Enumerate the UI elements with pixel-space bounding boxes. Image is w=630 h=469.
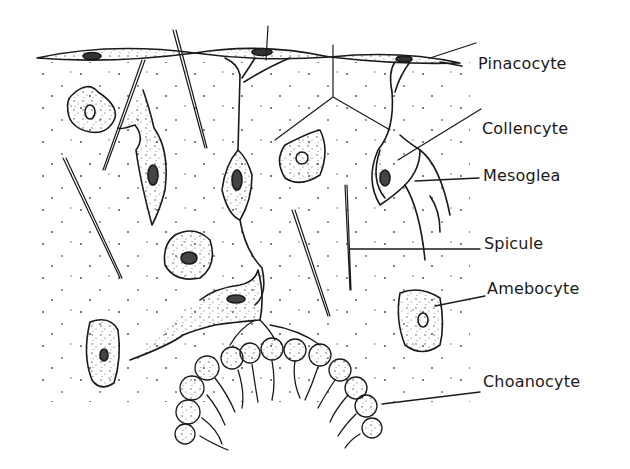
label-amebocyte: Amebocyte <box>487 279 580 298</box>
label-mesoglea: Mesoglea <box>483 166 561 185</box>
sponge-diagram: Pinacocyte Collencyte Mesoglea Spicule A… <box>0 0 630 469</box>
label-pinacocyte: Pinacocyte <box>478 54 567 73</box>
label-collencyte: Collencyte <box>482 119 568 138</box>
label-choanocyte: Choanocyte <box>483 372 580 391</box>
label-spicule: Spicule <box>484 234 543 253</box>
